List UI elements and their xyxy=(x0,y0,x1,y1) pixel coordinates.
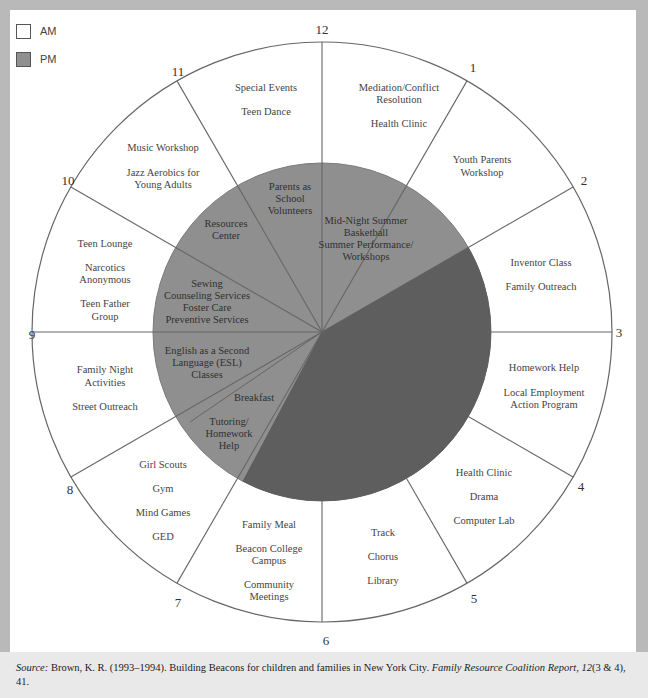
inner-9-10-line: Counseling Services xyxy=(164,290,250,301)
inner-10-11-line: Center xyxy=(212,230,240,241)
clock-wheel-diagram: 12 1 2 3 4 5 6 7 8 9 10 11 Mediation/Con… xyxy=(0,0,648,698)
seg-6-7-line: Beacon College xyxy=(236,543,303,554)
source-text: Brown, K. R. (1993–1994). Building Beaco… xyxy=(48,662,431,673)
seg-7-8-line: GED xyxy=(152,531,174,542)
seg-7-8-line: Gym xyxy=(153,483,174,494)
seg-5-6-line: Library xyxy=(367,575,399,586)
seg-12-1-line: Resolution xyxy=(376,94,422,105)
seg-11-12-line: Special Events xyxy=(235,82,297,93)
seg-1-2-line: Youth Parents xyxy=(453,154,512,165)
inner-8-9-line: Language (ESL) xyxy=(172,357,242,369)
seg-1-2-line: Workshop xyxy=(461,167,504,178)
seg-3-4-line: Local Employment xyxy=(504,387,585,398)
source-citation: Source: Brown, K. R. (1993–1994). Buildi… xyxy=(16,661,626,689)
seg-5-6-line: Track xyxy=(371,527,396,538)
inner-breakfast: Breakfast xyxy=(234,392,274,403)
seg-11-12-line: Teen Dance xyxy=(241,106,291,117)
seg-9-10-line: Group xyxy=(92,311,119,322)
inner-12-2-line: Workshops xyxy=(343,251,390,262)
inner-11-12-line: School xyxy=(275,193,304,204)
inner-10-11-line: Resources xyxy=(204,218,247,229)
inner-tutoring-line: Tutoring/ xyxy=(209,416,248,427)
hour-4: 4 xyxy=(578,479,585,494)
hour-11: 11 xyxy=(172,64,185,79)
seg-8-9-line: Activities xyxy=(85,377,126,388)
hour-7: 7 xyxy=(175,595,182,610)
seg-6-7-line: Family Meal xyxy=(242,519,296,530)
seg-8-9-line: Family Night xyxy=(77,364,133,375)
hour-8: 8 xyxy=(67,482,74,497)
seg-7-8-line: Mind Games xyxy=(136,507,191,518)
seg-4-5-line: Drama xyxy=(470,491,499,502)
hour-12: 12 xyxy=(316,22,329,37)
seg-8-9-line: Street Outreach xyxy=(72,401,138,412)
hour-9: 9 xyxy=(29,327,36,342)
seg-6-7-line: Meetings xyxy=(249,591,288,602)
inner-9-10-line: Foster Care xyxy=(183,302,232,313)
inner-9-10-line: Sewing xyxy=(191,278,223,289)
seg-10-11-line: Young Adults xyxy=(134,179,192,190)
seg-10-11-line: Jazz Aerobics for xyxy=(127,167,200,178)
inner-12-2-line: Basketball xyxy=(344,227,388,238)
seg-3-4-line: Homework Help xyxy=(509,362,579,373)
inner-tutoring-line: Homework xyxy=(205,428,253,439)
seg-4-5-line: Health Clinic xyxy=(456,467,513,478)
seg-12-1-line: Health Clinic xyxy=(371,118,428,129)
seg-2-3-line: Inventor Class xyxy=(511,257,572,268)
seg-6-7-line: Community xyxy=(244,579,295,590)
seg-10-11-line: Music Workshop xyxy=(127,142,199,153)
hour-6: 6 xyxy=(323,633,330,648)
inner-9-10-line: Preventive Services xyxy=(165,314,248,325)
inner-11-12-line: Volunteers xyxy=(268,205,313,216)
seg-9-10-line: Anonymous xyxy=(79,274,130,285)
seg-4-5-line: Computer Lab xyxy=(454,515,515,526)
seg-5-6-line: Chorus xyxy=(368,551,398,562)
hour-2: 2 xyxy=(581,173,588,188)
inner-12-2-line: Mid-Night Summer xyxy=(324,215,408,226)
seg-6-7-line: Campus xyxy=(252,555,286,566)
seg-9-10-line: Teen Father xyxy=(80,298,130,309)
seg-7-8-line: Girl Scouts xyxy=(139,459,187,470)
inner-8-9-line: Classes xyxy=(191,369,223,380)
seg-3-4-line: Action Program xyxy=(510,399,577,410)
inner-8-9-line: English as a Second xyxy=(165,345,250,356)
hour-3: 3 xyxy=(616,325,623,340)
seg-12-1-line: Mediation/Conflict xyxy=(359,82,440,93)
inner-tutoring-line: Help xyxy=(219,440,239,451)
hour-10: 10 xyxy=(62,173,75,188)
hour-1: 1 xyxy=(470,60,477,75)
seg-9-10-line: Narcotics xyxy=(85,262,125,273)
inner-11-12-line: Parents as xyxy=(269,181,311,192)
hour-5: 5 xyxy=(471,591,478,606)
seg-2-3-line: Family Outreach xyxy=(506,281,578,292)
seg-9-10-line: Teen Lounge xyxy=(78,238,133,249)
inner-12-2-line: Summer Performance/ xyxy=(319,239,414,250)
source-label: Source: xyxy=(16,662,48,673)
source-journal: Family Resource Coalition Report, 12 xyxy=(432,662,592,673)
